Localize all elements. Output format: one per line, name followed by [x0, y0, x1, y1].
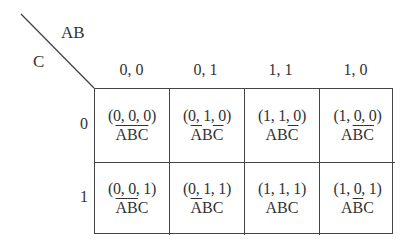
cell-tuple: (1, 0, 1) [334, 180, 382, 198]
cell-tuple: (0, 0, 0) [108, 107, 156, 125]
literal: B [127, 125, 138, 145]
kmap-cell: (1, 0, 0)ABC [320, 89, 395, 163]
cell-minterm: ABC [116, 125, 149, 145]
column-header: 0, 1 [168, 61, 243, 79]
literal: C [213, 198, 224, 218]
literal: A [341, 125, 353, 145]
karnaugh-map-grid: (0, 0, 0)ABC(0, 1, 0)ABC(1, 1, 0)ABC(1, … [94, 88, 393, 234]
cell-minterm: ABC [341, 198, 374, 218]
cell-minterm: ABC [116, 198, 149, 218]
literal: C [213, 125, 224, 145]
literal: B [277, 198, 288, 218]
literal: B [127, 198, 138, 218]
kmap-cell: (1, 1, 0)ABC [245, 89, 320, 163]
literal: A [191, 198, 203, 218]
literal: B [353, 198, 364, 218]
literal: A [191, 125, 203, 145]
literal: C [363, 125, 374, 145]
kmap-cell: (0, 0, 0)ABC [95, 89, 170, 163]
cell-tuple: (1, 1, 0) [258, 107, 306, 125]
cell-minterm: ABC [266, 125, 299, 145]
cell-tuple: (1, 1, 1) [258, 180, 306, 198]
literal: A [266, 125, 278, 145]
literal: C [288, 125, 299, 145]
row-header: 1 [74, 188, 94, 206]
kmap-cell: (0, 1, 1)ABC [170, 163, 245, 235]
cell-minterm: ABC [191, 125, 224, 145]
cell-minterm: ABC [341, 125, 374, 145]
cell-tuple: (0, 1, 1) [183, 180, 231, 198]
cell-tuple: (1, 0, 0) [334, 107, 382, 125]
literal: A [116, 125, 128, 145]
literal: A [266, 198, 278, 218]
literal: B [353, 125, 364, 145]
literal: B [277, 125, 288, 145]
literal: C [138, 125, 149, 145]
column-header: 1, 0 [318, 61, 393, 79]
cell-tuple: (0, 0, 1) [108, 180, 156, 198]
literal: C [363, 198, 374, 218]
literal: B [202, 125, 213, 145]
kmap-cell: (1, 1, 1)ABC [245, 163, 320, 235]
kmap-cell: (0, 1, 0)ABC [170, 89, 245, 163]
cell-minterm: ABC [266, 198, 299, 218]
literal: B [202, 198, 213, 218]
column-header: 0, 0 [94, 61, 169, 79]
literal: A [341, 198, 353, 218]
kmap-cell: (1, 0, 1)ABC [320, 163, 395, 235]
row-header: 0 [74, 115, 94, 133]
column-variable-label: AB [61, 23, 85, 43]
column-header: 1, 1 [243, 61, 318, 79]
kmap-cell: (0, 0, 1)ABC [95, 163, 170, 235]
cell-minterm: ABC [191, 198, 224, 218]
literal: A [116, 198, 128, 218]
literal: C [288, 198, 299, 218]
cell-tuple: (0, 1, 0) [183, 107, 231, 125]
literal: C [138, 198, 149, 218]
row-variable-label: C [33, 52, 44, 72]
